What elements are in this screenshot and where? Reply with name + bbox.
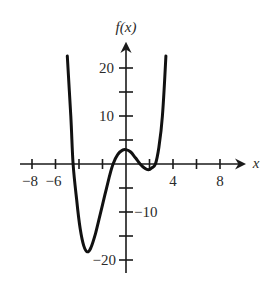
x-axis-tick-labels: −8−648	[22, 173, 224, 189]
x-tick-label: 8	[216, 173, 224, 189]
function-graph: −8−648 2010−10−20 f(x) x	[0, 0, 278, 289]
y-tick-label: −10	[134, 204, 157, 220]
y-tick-label: 10	[99, 108, 114, 124]
x-axis-title: x	[252, 155, 260, 171]
x-tick-label: −6	[46, 173, 62, 189]
x-tick-label: −8	[22, 173, 38, 189]
y-tick-label: 20	[99, 60, 114, 76]
y-axis-title: f(x)	[116, 19, 137, 36]
function-curve	[67, 56, 166, 252]
y-tick-label: −20	[93, 252, 116, 268]
x-tick-label: 4	[169, 173, 177, 189]
